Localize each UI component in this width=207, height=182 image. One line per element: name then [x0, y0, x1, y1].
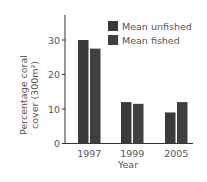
bar-1997-unfished — [78, 40, 89, 144]
x-axis-label: Year — [117, 159, 138, 170]
x-tick-label: 1997 — [77, 148, 101, 159]
y-axis-label-line2: cover (300m²) — [29, 61, 40, 129]
legend-swatch-unfished — [108, 21, 118, 31]
bar-1999-unfished — [121, 102, 132, 143]
y-tick-label: 20 — [48, 69, 60, 80]
x-tick-label: 1999 — [120, 148, 144, 159]
legend: Mean unfished Mean fished — [108, 21, 192, 46]
y-tick-label: 30 — [48, 35, 60, 46]
bar-chart: 0102030 199719992005 Percentage coral co… — [0, 0, 207, 182]
y-tick-label: 10 — [48, 104, 60, 115]
bar-2005-fished — [177, 102, 188, 143]
bar-1997-fished — [90, 49, 101, 144]
y-tick-label: 0 — [54, 138, 60, 149]
bar-2005-unfished — [165, 112, 176, 143]
legend-label-unfished: Mean unfished — [122, 21, 192, 32]
x-tick-label: 2005 — [164, 148, 188, 159]
y-axis-label-line1: Percentage coral — [18, 55, 29, 135]
bar-1999-fished — [133, 104, 144, 144]
legend-label-fished: Mean fished — [122, 35, 180, 46]
legend-swatch-fished — [108, 35, 118, 45]
